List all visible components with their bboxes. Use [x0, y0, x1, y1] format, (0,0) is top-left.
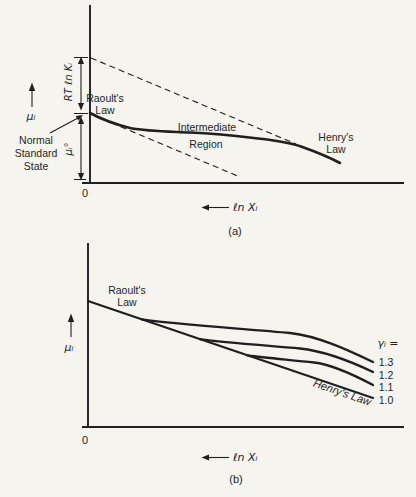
panel-b-x-label-arrow: [202, 454, 230, 460]
normal-standard-state-label-line1: Normal: [19, 134, 53, 146]
panel-a-caption: (a): [228, 225, 241, 237]
left-arrow-icon: [202, 454, 210, 460]
mu-axis-arrow: [29, 83, 35, 108]
intermediate-region-label-line1: Intermediate: [178, 121, 237, 133]
panel-b-x-axis-label: ℓn Xᵢ: [232, 451, 258, 464]
panel-a: μᵢ RT ℓn Kᵢ μᵢ° Normal Standard State Ra…: [15, 5, 404, 237]
gamma-value-1-1: 1.1: [379, 381, 394, 393]
panel-a-henrys-law-label-line2: Law: [326, 143, 346, 155]
gamma-value-1-2: 1.2: [379, 369, 394, 381]
normal-standard-state-label-line3: State: [24, 160, 49, 172]
up-arrow-icon: [29, 83, 35, 92]
panel-a-raoults-law-label-line2: Law: [95, 104, 115, 116]
gamma-1-1-curve: [248, 356, 373, 386]
panel-b-raoults-law-label-line1: Raoult's: [108, 284, 146, 296]
arrow-down-icon: [78, 103, 84, 111]
gamma-legend-label: γᵢ =: [377, 337, 398, 350]
gamma-value-1-0: 1.0: [379, 394, 394, 406]
panel-b-raoults-law-label-line2: Law: [117, 296, 137, 308]
rt-ln-k-bracket-arrow: [78, 57, 84, 111]
panel-a-raoults-law-label-line1: Raoult's: [86, 92, 124, 104]
figure: μᵢ RT ℓn Kᵢ μᵢ° Normal Standard State Ra…: [0, 0, 416, 497]
up-arrow-icon: [68, 314, 74, 323]
gamma-value-1-3: 1.3: [379, 356, 394, 368]
panel-a-x-label-arrow: [202, 204, 230, 210]
panel-b: Raoult's Law μᵢ Henry's Law γᵢ = 1.3 1.2…: [64, 243, 404, 485]
panel-b-caption: (b): [229, 473, 242, 485]
mu-standard-bracket-arrow: [78, 117, 84, 181]
panel-a-origin-label: 0: [82, 187, 88, 199]
left-arrow-icon: [202, 204, 210, 210]
panel-a-y-axis-symbol: μᵢ: [26, 110, 36, 123]
page: { "colors": { "background": "#f5f4ef", "…: [0, 0, 416, 497]
panel-b-y-axis-symbol: μᵢ: [64, 341, 74, 354]
panel-a-x-axis-label: ℓn Xᵢ: [232, 201, 258, 214]
diagram-canvas: μᵢ RT ℓn Kᵢ μᵢ° Normal Standard State Ra…: [0, 0, 416, 497]
panel-b-origin-label: 0: [82, 434, 88, 446]
panel-a-henrys-law-label-line1: Henry's: [318, 131, 353, 143]
intermediate-region-label-line2: Region: [189, 138, 222, 150]
normal-standard-state-label-line2: Standard: [15, 147, 58, 159]
gamma-1-2-curve: [200, 339, 373, 372]
mu-standard-label: μᵢ°: [63, 142, 74, 156]
panel-b-mu-axis-arrow: [68, 314, 74, 338]
rt-ln-k-label: RT ℓn Kᵢ: [63, 63, 74, 101]
